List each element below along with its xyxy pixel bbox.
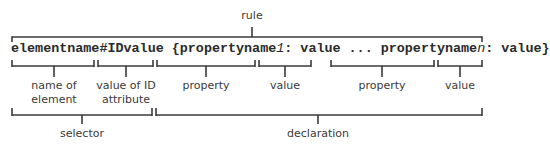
code-propertyn: propertyname xyxy=(381,41,477,56)
code-ellipsis: ... xyxy=(341,41,381,56)
code-valuen: value xyxy=(501,41,541,56)
code-open-brace: { xyxy=(164,41,180,56)
code-propertyn-index: n xyxy=(477,41,485,56)
label-line-2: attribute xyxy=(96,93,155,107)
code-property1: propertyname xyxy=(180,41,276,56)
element-name-bracket xyxy=(12,60,94,77)
code-element-name: elementname xyxy=(11,41,99,56)
css-rule-code: elementname#IDvalue {propertyname1: valu… xyxy=(11,41,550,56)
propertyn-bracket xyxy=(331,60,434,77)
valuen-bracket xyxy=(438,60,482,77)
code-value1: value xyxy=(300,41,340,56)
label-property-n: property xyxy=(358,79,405,93)
code-close-brace: } xyxy=(541,41,549,56)
rule-label: rule xyxy=(241,9,262,23)
label-value-n: value xyxy=(445,79,475,93)
rule-bracket xyxy=(12,27,482,42)
value1-bracket xyxy=(259,60,311,77)
selector-bracket xyxy=(12,108,152,124)
label-selector: selector xyxy=(60,127,104,141)
code-id-value: IDvalue xyxy=(107,41,163,56)
label-line-1: value of ID xyxy=(96,79,155,93)
label-value-of-id: value of ID attribute xyxy=(96,79,155,107)
label-line-1: name of xyxy=(31,79,76,93)
label-name-of-element: name of element xyxy=(31,79,76,107)
property1-bracket xyxy=(157,60,255,77)
code-colon1: : xyxy=(284,41,300,56)
label-declaration: declaration xyxy=(287,127,349,141)
label-property-1: property xyxy=(182,79,229,93)
label-line-2: element xyxy=(31,93,76,107)
label-value-1: value xyxy=(270,79,300,93)
code-colonn: : xyxy=(485,41,501,56)
id-value-bracket xyxy=(98,60,153,77)
declaration-bracket xyxy=(156,108,482,124)
